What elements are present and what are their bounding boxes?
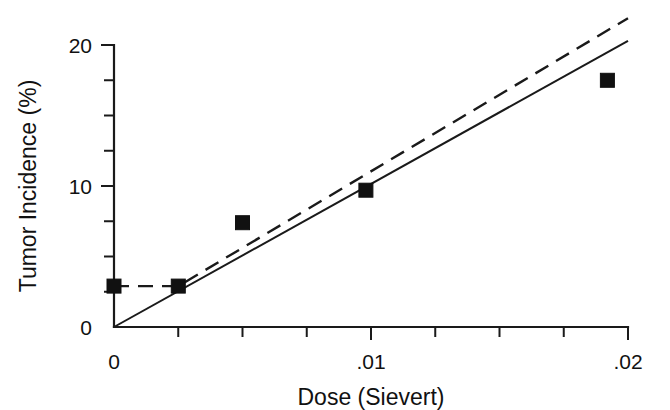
x-axis-tick-labels: 0.01.02	[108, 350, 642, 373]
y-tick-label: 20	[69, 34, 92, 57]
x-tick-label: .01	[356, 350, 385, 373]
threshold-fit-line	[114, 18, 628, 286]
y-axis-ticks	[101, 45, 114, 292]
x-axis-title: Dose (Sievert)	[298, 384, 445, 410]
data-point-marker	[359, 183, 373, 197]
y-tick-label: 10	[69, 175, 92, 198]
y-axis-title: Tumor Incidence (%)	[15, 80, 41, 293]
data-point-markers	[107, 73, 614, 293]
scatter-plot-svg: 01020 0.01.02 Dose (Sievert) Tumor Incid…	[0, 0, 670, 410]
data-point-marker	[236, 216, 250, 230]
x-tick-label: .02	[613, 350, 642, 373]
chart-figure: 01020 0.01.02 Dose (Sievert) Tumor Incid…	[0, 0, 670, 410]
data-point-marker	[600, 73, 614, 87]
data-point-marker	[107, 279, 121, 293]
figure-page: 01020 0.01.02 Dose (Sievert) Tumor Incid…	[0, 0, 670, 410]
fit-lines-group	[114, 18, 628, 327]
y-tick-label: 0	[80, 316, 92, 339]
x-axis-ticks	[178, 327, 628, 340]
data-point-marker	[171, 279, 185, 293]
y-axis-tick-labels: 01020	[69, 34, 92, 339]
x-tick-label: 0	[108, 350, 120, 373]
